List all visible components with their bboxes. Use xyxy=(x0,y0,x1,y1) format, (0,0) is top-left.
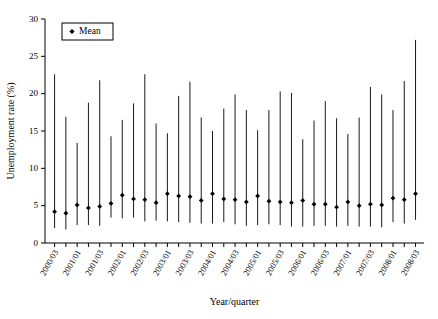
mean-marker xyxy=(391,196,396,201)
x-tick-label-group: 2007/01 xyxy=(331,248,354,277)
x-tick-label: 2001/01 xyxy=(60,248,83,277)
mean-marker xyxy=(221,197,226,202)
mean-marker xyxy=(289,200,294,205)
mean-marker xyxy=(233,197,238,202)
x-tick-label: 2003/03 xyxy=(173,248,196,277)
x-tick-label-group: 2006/03 xyxy=(308,248,331,277)
y-tick-label: 10 xyxy=(29,163,39,173)
mean-marker xyxy=(312,202,317,207)
axes xyxy=(41,19,424,247)
mean-marker xyxy=(63,211,68,216)
chart-legend[interactable]: Mean xyxy=(62,23,113,40)
mean-marker xyxy=(86,206,91,211)
x-tick-label-group: 2004/03 xyxy=(218,248,241,277)
x-tick-label: 2002/03 xyxy=(128,248,151,277)
y-axis-title-group: Unemployment rate (%) xyxy=(5,82,17,179)
mean-marker xyxy=(300,198,305,203)
y-tick-label: 5 xyxy=(34,200,39,210)
x-tick-label: 2004/01 xyxy=(196,248,219,277)
x-tick-label-group: 2004/01 xyxy=(196,248,219,277)
mean-marker xyxy=(345,200,350,205)
x-tick-label: 2008/01 xyxy=(376,248,399,277)
y-tick-label: 0 xyxy=(34,238,39,248)
y-axis-title: Unemployment rate (%) xyxy=(5,82,17,179)
x-tick-label: 2006/01 xyxy=(286,248,309,277)
x-tick-label: 2007/01 xyxy=(331,248,354,277)
mean-marker xyxy=(255,194,260,199)
mean-marker xyxy=(199,198,204,203)
x-tick-label-group: 2000/03 xyxy=(38,248,61,277)
x-tick-label-group: 2001/01 xyxy=(60,248,83,277)
mean-marker xyxy=(131,197,136,202)
y-tick-label: 20 xyxy=(29,88,39,98)
x-tick-label: 2001/03 xyxy=(83,248,106,277)
x-tick-label: 2002/01 xyxy=(105,248,128,277)
x-tick-label-group: 2007/03 xyxy=(354,248,377,277)
x-tick-label: 2008/03 xyxy=(399,248,422,277)
mean-marker xyxy=(323,202,328,207)
mean-marker xyxy=(154,200,159,205)
mean-marker xyxy=(120,193,125,198)
mean-marker xyxy=(210,191,215,196)
x-tick-label: 2003/01 xyxy=(151,248,174,277)
chart-container: 0510152025302000/032001/012001/032002/01… xyxy=(0,0,438,319)
mean-marker xyxy=(109,201,114,206)
x-axis-title: Year/quarter xyxy=(210,296,260,307)
x-tick-label-group: 2006/01 xyxy=(286,248,309,277)
mean-marker xyxy=(188,194,193,199)
x-tick-label-group: 2005/03 xyxy=(263,248,286,277)
x-tick-label-group: 2002/03 xyxy=(128,248,151,277)
mean-marker xyxy=(334,205,339,210)
mean-marker xyxy=(165,191,170,196)
plot-area xyxy=(52,40,418,230)
x-tick-label: 2000/03 xyxy=(38,248,61,277)
mean-marker xyxy=(357,203,362,208)
x-tick-label-group: 2002/01 xyxy=(105,248,128,277)
x-tick-label-group: 2008/03 xyxy=(399,248,422,277)
x-tick-label: 2007/03 xyxy=(354,248,377,277)
mean-marker xyxy=(368,202,373,207)
mean-marker xyxy=(244,200,249,205)
x-tick-label-group: 2005/01 xyxy=(241,248,264,277)
x-tick-label-group: 2003/03 xyxy=(173,248,196,277)
y-tick-label: 15 xyxy=(29,126,39,136)
mean-marker xyxy=(402,197,407,202)
mean-marker xyxy=(142,197,147,202)
legend-label-mean: Mean xyxy=(79,26,101,36)
y-tick-label: 25 xyxy=(29,51,39,61)
unemployment-rate-chart: 0510152025302000/032001/012001/032002/01… xyxy=(0,0,438,319)
x-tick-label: 2005/03 xyxy=(263,248,286,277)
x-tick-label-group: 2001/03 xyxy=(83,248,106,277)
mean-marker xyxy=(267,199,272,204)
mean-marker xyxy=(176,194,181,199)
mean-marker xyxy=(52,209,57,214)
mean-marker xyxy=(75,203,80,208)
y-tick-label: 30 xyxy=(29,14,39,24)
x-tick-label: 2006/03 xyxy=(308,248,331,277)
x-tick-label: 2005/01 xyxy=(241,248,264,277)
mean-marker xyxy=(278,200,283,205)
x-tick-label: 2004/03 xyxy=(218,248,241,277)
x-tick-label-group: 2003/01 xyxy=(151,248,174,277)
mean-marker xyxy=(97,204,102,209)
x-tick-label-group: 2008/01 xyxy=(376,248,399,277)
mean-marker xyxy=(379,203,384,208)
mean-marker xyxy=(413,191,418,196)
